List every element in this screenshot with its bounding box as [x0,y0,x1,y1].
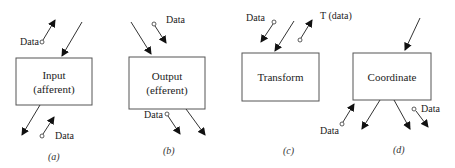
panel-caption: (a) [48,151,60,162]
call-arrow-in [405,18,420,50]
panel-caption: (d) [393,144,405,155]
data-up-circle [340,122,344,126]
data-in-arrow [261,24,273,42]
data-couple-down-arrow [155,26,166,43]
data-in-circle [272,20,276,24]
call-arrow-out-left [362,100,380,129]
output-arrow-down [22,105,40,135]
data-label: Data [166,15,185,25]
data-label: Data [144,110,163,120]
data-couple-up-arrow-bottom [43,117,54,134]
data-out-circle [298,38,302,42]
data-label: Data [421,104,440,114]
data-down-circle [412,107,416,111]
call-arrow-out [186,109,205,135]
call-arrow-in [62,22,82,56]
data-couple-circle [152,22,156,26]
coordinate-module-label: Coordinate [353,53,431,100]
data-couple-circle [40,40,44,44]
data-couple-circle-bottom [165,112,169,116]
data-out-arrow [301,20,312,38]
call-arrow-out-right [394,100,410,129]
data-label: Data [55,131,74,141]
transform-module-label: Transform [242,53,319,101]
data-couple-circle-bottom [40,134,44,138]
box-line-2: (afferent) [33,82,74,96]
call-arrow-in [131,22,151,54]
output-module-label: Output (efferent) [129,57,205,109]
box-line-2: (efferent) [146,83,187,97]
box-line-1: Transform [257,70,303,84]
data-up-arrow [343,104,354,122]
panel-caption: (c) [283,145,294,156]
input-module-label: Input (afferent) [16,58,92,105]
data-label: Data [246,13,265,23]
module-types-diagram: Data Input (afferent) Data (a) Data Outp… [0,0,455,168]
data-label: Data [320,126,339,136]
data-couple-down-arrow-bottom [168,116,180,134]
panel-caption: (b) [163,145,175,156]
box-line-1: Input [42,68,65,82]
box-line-1: Output [152,69,183,83]
box-line-1: Coordinate [368,70,417,84]
transformed-data-label: T (data) [320,11,352,21]
data-label: Data [20,37,39,47]
data-couple-up-arrow [43,20,55,40]
call-arrow-in [275,21,294,51]
